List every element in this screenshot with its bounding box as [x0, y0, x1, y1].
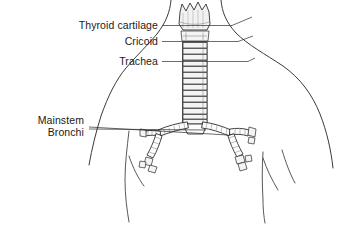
trachea-ring: [183, 115, 207, 120]
trachea-ring: [183, 85, 207, 91]
left-segmental-bud-2: [148, 165, 157, 173]
trachea-ring: [183, 67, 207, 73]
airway-anatomy-figure: Thyroid cartilage Cricoid Trachea Mainst…: [0, 0, 348, 226]
leader-lines-group: [89, 17, 255, 135]
right-segmental-bud-3: [245, 155, 252, 162]
label-trachea: Trachea: [119, 55, 158, 67]
label-cricoid: Cricoid: [125, 35, 158, 47]
trachea-ring: [183, 49, 207, 55]
trachea-ring: [183, 43, 207, 49]
left-rib-contour-inner: [129, 156, 144, 186]
left-lower-lobe-bronchus: [147, 134, 162, 158]
anatomy-illustration: Thyroid cartilage Cricoid Trachea Mainst…: [0, 0, 348, 226]
label-mainstem-bronchi-line-2: Bronchi: [48, 126, 84, 138]
leader-trachea: [162, 58, 255, 62]
right-upper-lobe-bud-2: [248, 137, 255, 144]
trachea-ring: [183, 103, 207, 109]
label-thyroid-cartilage: Thyroid cartilage: [79, 19, 158, 31]
right-segmental-bud-2: [238, 162, 247, 171]
trachea-ring: [183, 55, 207, 61]
trachea-ring: [183, 91, 207, 97]
trachea-ring: [183, 79, 207, 85]
left-rib-contour-outer: [125, 131, 129, 222]
trachea-group: [183, 42, 207, 124]
trachea-ring: [183, 109, 207, 115]
trachea-ring: [183, 97, 207, 103]
left-segmental-bud-3: [139, 161, 146, 168]
label-mainstem-bronchi-line-1: Mainstem: [38, 114, 84, 126]
right-upper-lobe-bud-1: [248, 127, 256, 137]
trachea-cartilage-rings: [183, 43, 207, 125]
labels-group: Thyroid cartilage Cricoid Trachea Mainst…: [38, 19, 158, 138]
right-rib-contour-branch: [263, 158, 278, 190]
right-rib-contour-outer: [282, 150, 295, 183]
torso-outline-group: [89, 0, 333, 223]
trachea-ring: [183, 73, 207, 79]
left-mainstem-bronchus: [158, 122, 188, 136]
larynx-group: [179, 2, 210, 41]
